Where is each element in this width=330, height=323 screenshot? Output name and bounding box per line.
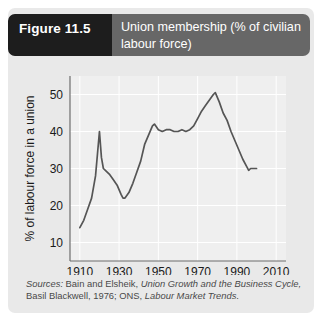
figure-title-line-2: labour force)	[121, 37, 192, 51]
source-line2-italic: Labour Market Trends	[145, 290, 237, 301]
y-tick-50: 50	[50, 88, 64, 102]
x-tick-1930: 1930	[106, 265, 133, 275]
source-line2-suffix: .	[236, 290, 239, 301]
figure-number-label: Figure 11.5	[19, 21, 91, 36]
y-tick-20: 20	[50, 199, 64, 213]
line-chart-svg: 1020304050 191019301950197019902010 % of…	[8, 60, 314, 275]
y-axis-title: % of labour force in a union	[23, 95, 37, 241]
x-tick-2010: 2010	[263, 265, 290, 275]
figure-title: Union membership (% of civilian labour f…	[121, 19, 306, 53]
y-tick-40: 40	[50, 125, 64, 139]
source-citation: Sources: Bain and Elsheik, Union Growth …	[26, 278, 306, 301]
x-axis-tick-labels: 191019301950197019902010	[66, 265, 289, 275]
figure-panel: Figure 11.5 Union membership (% of civil…	[8, 8, 314, 313]
x-tick-1990: 1990	[224, 265, 251, 275]
source-line2-plain: Basil Blackwell, 1976; ONS,	[26, 290, 145, 301]
figure-number-box: Figure 11.5	[8, 14, 112, 56]
y-axis-tick-labels: 1020304050	[50, 88, 64, 250]
source-prefix: Sources:	[26, 278, 63, 289]
x-tick-1910: 1910	[66, 265, 93, 275]
source-line1-plain: Bain and Elsheik,	[63, 278, 141, 289]
x-tick-1950: 1950	[145, 265, 172, 275]
figure-header: Figure 11.5 Union membership (% of civil…	[8, 14, 310, 56]
y-tick-30: 30	[50, 162, 64, 176]
figure-title-line-1: Union membership (% of civilian	[121, 20, 301, 34]
chart-plot-area: 1020304050 191019301950197019902010 % of…	[8, 60, 314, 275]
y-tick-10: 10	[50, 236, 64, 250]
x-tick-1970: 1970	[184, 265, 211, 275]
source-line1-italic: Union Growth and the Business Cycle,	[141, 278, 302, 289]
